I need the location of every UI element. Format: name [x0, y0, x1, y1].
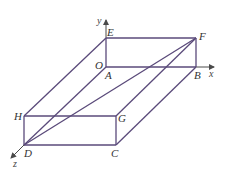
edge-DA: [24, 67, 106, 145]
origin-label: O: [95, 59, 103, 71]
y-axis-label: y: [96, 15, 102, 26]
vertex-F-label: F: [198, 30, 206, 42]
vertex-G-label: G: [118, 112, 126, 124]
vertex-E-label: E: [106, 26, 114, 38]
box-diagram: y x z O A B C D E F G H: [0, 0, 226, 172]
edge-FG: [116, 38, 196, 116]
vertex-C-label: C: [111, 147, 119, 159]
vertex-H-label: H: [13, 110, 23, 122]
edge-HE: [24, 38, 106, 116]
vertex-D-label: D: [23, 147, 32, 159]
vertex-A-label: A: [104, 69, 112, 81]
edge-BC: [116, 67, 196, 145]
vertex-B-label: B: [194, 69, 201, 81]
z-axis-label: z: [12, 158, 17, 169]
x-axis-label: x: [208, 68, 214, 79]
z-axis: [11, 145, 24, 158]
